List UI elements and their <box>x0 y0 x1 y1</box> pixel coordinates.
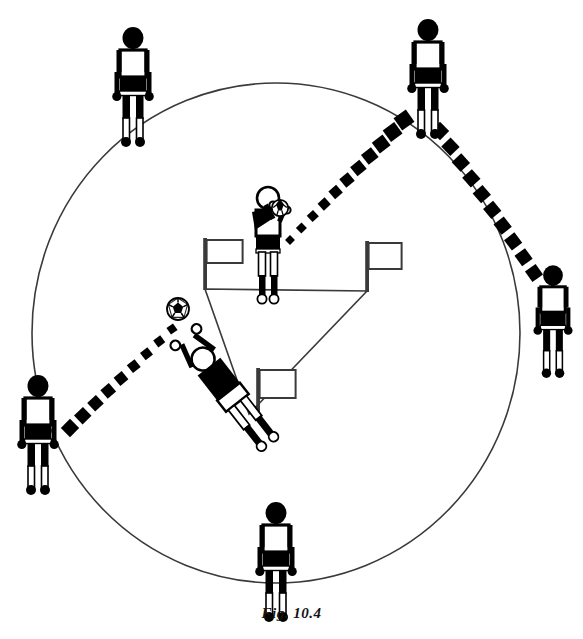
trajectory-marker <box>452 153 470 171</box>
trajectory-marker <box>114 371 129 386</box>
trajectory-marker <box>504 232 522 250</box>
trajectory-marker <box>296 222 307 233</box>
trajectory-marker <box>494 217 512 235</box>
figure-container: Fig. 10.4 <box>0 0 583 639</box>
ball-trajectories <box>61 110 543 438</box>
trajectory-left-to-keeper <box>61 323 178 437</box>
trajectory-marker <box>525 264 543 282</box>
trajectory-marker <box>318 197 331 210</box>
player-left <box>17 375 59 495</box>
flag-top-right-cloth <box>369 243 402 269</box>
trajectory-marker <box>285 235 295 245</box>
flag-bottom <box>256 368 295 416</box>
trajectory-marker <box>350 160 367 177</box>
trajectory-marker <box>153 335 165 347</box>
trajectory-marker <box>328 185 342 199</box>
flag-bottom-cloth <box>260 370 296 398</box>
trajectory-marker <box>100 383 116 399</box>
trajectory-marker <box>140 347 153 360</box>
trajectory-thrower-to-top-right <box>285 110 414 245</box>
player-bottom <box>255 502 297 622</box>
trajectory-marker <box>361 147 379 165</box>
soccer-ball <box>167 298 189 320</box>
trajectory-marker <box>74 407 91 424</box>
trajectory-marker <box>166 323 177 334</box>
trajectory-marker <box>127 359 141 373</box>
player-top-left <box>112 27 154 147</box>
trajectory-marker <box>87 395 104 412</box>
flag-top-left-cloth <box>207 240 243 263</box>
trajectory-marker <box>339 172 354 187</box>
trajectory-marker <box>61 419 79 437</box>
flag-top-left <box>203 238 242 290</box>
player-right <box>533 265 572 378</box>
trajectory-marker <box>372 135 391 154</box>
trajectory-marker <box>462 169 480 187</box>
trajectory-marker <box>483 201 501 219</box>
trajectory-top-right-to-right <box>431 122 543 282</box>
trajectory-marker <box>441 138 459 156</box>
player-center-thrower <box>252 187 291 304</box>
figure-caption: Fig. 10.4 <box>0 605 583 622</box>
trajectory-marker <box>514 248 532 266</box>
flag-top-right <box>365 241 401 292</box>
figure-illustration <box>0 0 583 639</box>
trajectory-marker <box>307 210 319 222</box>
